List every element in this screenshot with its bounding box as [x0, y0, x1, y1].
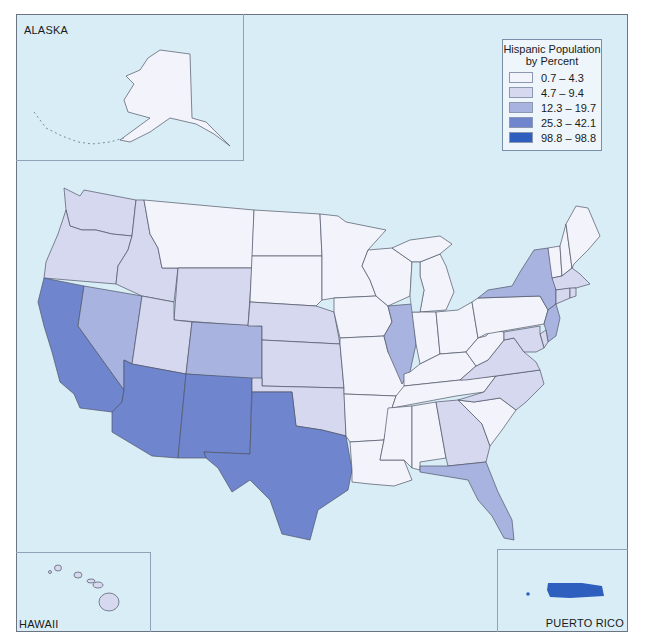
state-NE[interactable] — [248, 302, 340, 344]
state-MT[interactable] — [144, 200, 254, 268]
inset-label-hawaii: HAWAII — [19, 618, 59, 630]
legend-swatch — [509, 102, 533, 113]
inset-frame-hawaii: HAWAII — [16, 552, 151, 632]
legend-title-line2: by Percent — [503, 55, 601, 67]
state-MI[interactable] — [420, 254, 454, 312]
legend-row: 0.7 – 4.3 — [509, 70, 601, 85]
state-SD[interactable] — [250, 256, 322, 306]
legend-rows: 0.7 – 4.3 4.7 – 9.4 12.3 – 19.7 25.3 – 4… — [503, 70, 601, 145]
state-NM[interactable] — [178, 374, 252, 458]
inset-frame-alaska — [16, 14, 244, 161]
state-CO[interactable] — [186, 322, 262, 380]
legend-title: Hispanic Population by Percent — [503, 43, 601, 67]
legend-title-line1: Hispanic Population — [503, 43, 601, 55]
legend-row: 25.3 – 42.1 — [509, 115, 601, 130]
legend-row: 12.3 – 19.7 — [509, 100, 601, 115]
state-WY[interactable] — [174, 268, 252, 326]
legend-label: 0.7 – 4.3 — [541, 72, 584, 84]
state-FL[interactable] — [420, 462, 514, 540]
legend-label: 12.3 – 19.7 — [541, 102, 596, 114]
legend-label: 25.3 – 42.1 — [541, 117, 596, 129]
inset-label-puerto-rico: PUERTO RICO — [546, 617, 624, 629]
legend-swatch — [509, 132, 533, 143]
inset-frame-puerto-rico: PUERTO RICO — [497, 549, 628, 632]
state-KS[interactable] — [262, 340, 344, 388]
legend-swatch — [509, 87, 533, 98]
legend: Hispanic Population by Percent 0.7 – 4.3… — [502, 39, 602, 151]
legend-row: 4.7 – 9.4 — [509, 85, 601, 100]
legend-swatch — [509, 117, 533, 128]
state-RI[interactable] — [570, 288, 576, 298]
legend-row: 98.8 – 98.8 — [509, 130, 601, 145]
legend-label: 4.7 – 9.4 — [541, 87, 584, 99]
state-ND[interactable] — [252, 210, 322, 256]
state-CT[interactable] — [556, 288, 570, 304]
inset-label-alaska: ALASKA — [24, 24, 68, 36]
state-ME[interactable] — [566, 206, 600, 268]
legend-swatch — [509, 72, 533, 83]
legend-label: 98.8 – 98.8 — [541, 132, 596, 144]
